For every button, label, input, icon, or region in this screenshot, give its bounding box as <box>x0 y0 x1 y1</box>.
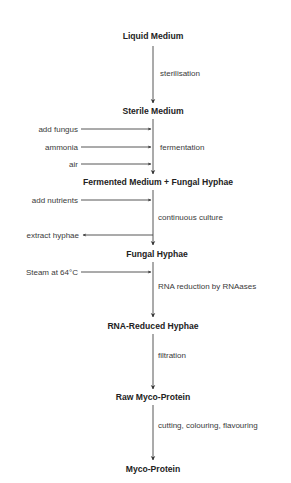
input-add-nutrients: add nutrients <box>32 196 78 205</box>
node-liquid-medium: Liquid Medium <box>123 31 184 41</box>
step-label-cutting: cutting, colouring, flavouring <box>158 421 258 430</box>
step-label-fermentation: fermentation <box>160 143 204 152</box>
node-rna-reduced-hyphae: RNA-Reduced Hyphae <box>107 321 198 331</box>
step-label-sterilisation: sterilisation <box>160 69 200 78</box>
node-fermented-medium: Fermented Medium + Fungal Hyphae <box>83 177 233 187</box>
input-add-fungus: add fungus <box>38 125 78 134</box>
input-steam: Steam at 64°C <box>26 268 78 277</box>
node-myco-protein: Myco-Protein <box>126 464 180 474</box>
node-fungal-hyphae: Fungal Hyphae <box>126 249 188 259</box>
step-label-continuous-culture: continuous culture <box>158 213 223 222</box>
step-label-filtration: filtration <box>158 351 186 360</box>
step-label-rna-reduction: RNA reduction by RNAases <box>158 282 256 291</box>
flowchart-connectors <box>0 0 291 483</box>
input-air: air <box>69 160 78 169</box>
node-sterile-medium: Sterile Medium <box>122 106 183 116</box>
output-extract-hyphae: extract hyphae <box>27 231 79 240</box>
input-ammonia: ammonia <box>45 143 78 152</box>
node-raw-myco-protein: Raw Myco-Protein <box>116 392 191 402</box>
